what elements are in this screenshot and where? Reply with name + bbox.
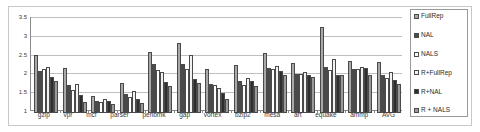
x-tick-label: gzip — [38, 112, 50, 119]
x-tick-label: equake — [315, 112, 336, 119]
bar-group — [63, 20, 87, 113]
bar — [168, 86, 172, 113]
bar — [397, 84, 401, 113]
legend-swatch-icon — [414, 52, 419, 57]
y-tick-label: 2.5 — [19, 52, 27, 58]
bar-chart: 11.522.533.5 gzipvprmcfparserperlbmkgapv… — [0, 0, 480, 132]
bar — [283, 75, 287, 113]
bar-group — [91, 20, 115, 113]
legend-item[interactable]: R + NALS — [414, 107, 465, 114]
x-tick-label: ammp — [350, 112, 368, 119]
x-tick-label: vortex — [204, 112, 222, 119]
bar-group — [320, 20, 344, 113]
y-tick-label: 1 — [24, 108, 27, 114]
bar — [254, 86, 258, 113]
bar-group — [148, 20, 172, 113]
bar — [368, 75, 372, 113]
x-tick-label: vpr — [63, 112, 72, 119]
legend-label: FullRep — [421, 13, 443, 20]
bar — [225, 99, 229, 113]
y-tick-label: 2 — [24, 70, 27, 76]
x-axis: gzipvprmcfparserperlbmkgapvortexbzip2mes… — [31, 112, 402, 119]
x-tick-label: perlbmk — [142, 112, 165, 119]
bar-group — [205, 20, 229, 113]
legend-item[interactable]: R+FullRep — [414, 70, 465, 77]
legend-label: NALS — [421, 51, 438, 58]
bar-group — [34, 20, 58, 113]
gridline — [31, 17, 402, 18]
legend-swatch-icon — [414, 89, 419, 94]
legend-label: R+FullRep — [421, 70, 452, 77]
legend-swatch-icon — [414, 33, 419, 38]
bars-layer — [32, 20, 403, 113]
bar-group — [263, 20, 287, 113]
bar-group — [291, 20, 315, 113]
x-tick-label: parser — [110, 112, 128, 119]
legend-item[interactable]: NAL — [414, 32, 465, 39]
plot-area — [30, 17, 402, 111]
bar — [311, 77, 315, 113]
y-axis: 11.522.533.5 — [8, 17, 27, 111]
y-tick-label: 1.5 — [19, 89, 27, 95]
bar-group — [348, 20, 372, 113]
x-tick-label: AVG — [382, 112, 395, 119]
bar — [340, 75, 344, 113]
bar-group — [234, 20, 258, 113]
legend-item[interactable]: R+NAL — [414, 89, 465, 96]
legend-item[interactable]: NALS — [414, 51, 465, 58]
legend-item[interactable]: FullRep — [414, 13, 465, 20]
legend-label: NAL — [421, 32, 434, 39]
bar — [197, 83, 201, 113]
x-tick-label: mcf — [86, 112, 96, 119]
bar — [54, 81, 58, 113]
legend-swatch-icon — [414, 108, 419, 113]
x-tick-label: art — [294, 112, 302, 119]
plot-wrapper — [30, 14, 402, 126]
legend-label: R+NAL — [421, 89, 442, 96]
bar-group — [377, 20, 401, 113]
bar-group — [177, 20, 201, 113]
x-tick-label: bzip2 — [235, 112, 251, 119]
legend-swatch-icon — [414, 70, 419, 75]
y-tick-label: 3 — [24, 33, 27, 39]
y-tick-label: 3.5 — [19, 14, 27, 20]
x-tick-label: gap — [179, 112, 190, 119]
chart-legend: FullRepNALNALSR+FullRepR+NALR + NALS — [410, 9, 468, 117]
legend-swatch-icon — [414, 14, 419, 19]
x-tick-label: mesa — [264, 112, 280, 119]
legend-label: R + NALS — [421, 107, 450, 114]
bar-group — [120, 20, 144, 113]
